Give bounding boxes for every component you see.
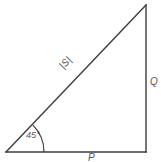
vertical-side-label: Q xyxy=(150,76,158,87)
angle-label: 45° xyxy=(26,130,40,140)
triangle-diagram: |S| Q P 45° xyxy=(0,0,161,162)
triangle-drawing xyxy=(0,0,161,162)
base-side-label: P xyxy=(88,152,95,162)
